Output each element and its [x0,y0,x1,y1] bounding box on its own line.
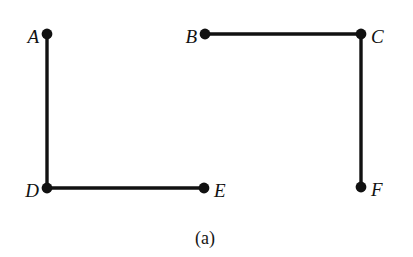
vertex-label-c: C [371,27,384,46]
graph-vertex-d [42,183,53,194]
graph-vertex-c [356,29,367,40]
figure-container: ABCDEF (a) [0,0,413,257]
edge-layer [47,34,361,188]
figure-caption: (a) [195,229,215,247]
graph-canvas [0,0,413,257]
graph-vertex-f [356,182,367,193]
graph-vertex-b [200,29,211,40]
vertex-label-f: F [371,180,383,199]
graph-vertex-a [42,29,53,40]
vertex-label-d: D [25,181,39,200]
vertex-layer [42,29,367,194]
vertex-label-a: A [27,27,39,46]
vertex-label-b: B [185,27,197,46]
vertex-label-e: E [214,181,226,200]
graph-vertex-e [199,183,210,194]
